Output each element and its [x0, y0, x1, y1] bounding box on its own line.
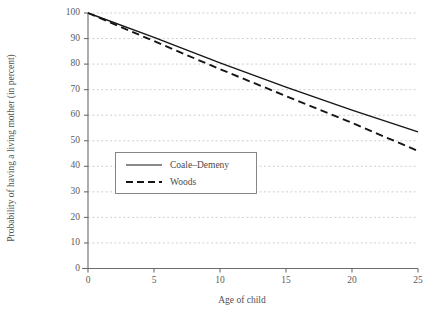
x-axis-title: Age of child	[218, 295, 266, 305]
x-axis-tick-label: 25	[413, 275, 423, 285]
y-axis-tick-label: 70	[71, 84, 81, 94]
y-axis-tick-label: 20	[71, 212, 81, 222]
gridline-group	[88, 13, 418, 269]
series-line-woods	[88, 13, 418, 151]
y-axis-tick-label: 80	[71, 58, 81, 68]
legend-label-woods: Woods	[170, 177, 196, 187]
chart-figure: 0102030405060708090100 0510152025 Age of…	[0, 0, 432, 326]
y-axis-tick-label: 100	[66, 7, 81, 17]
y-axis-tick-label: 30	[71, 186, 81, 196]
legend-box	[116, 153, 257, 194]
y-axis-tick-group	[84, 13, 88, 269]
y-axis-title: Probability of having a living mother (i…	[6, 54, 17, 242]
y-axis-tick-label: 50	[71, 135, 81, 145]
x-axis-tick-labels: 0510152025	[86, 275, 423, 285]
legend-label-coale-demeny: Coale–Demeny	[170, 160, 229, 170]
y-axis-tick-label: 0	[75, 263, 80, 273]
y-axis-tick-label: 10	[71, 237, 81, 247]
series-line-coale-demeny	[88, 13, 418, 132]
x-axis-tick-label: 20	[347, 275, 357, 285]
x-axis-tick-label: 0	[86, 275, 91, 285]
x-axis-tick-label: 10	[215, 275, 225, 285]
chart-legend: Coale–Demeny Woods	[116, 153, 257, 194]
y-axis-tick-labels: 0102030405060708090100	[66, 7, 81, 273]
y-axis-tick-label: 40	[71, 160, 81, 170]
x-axis-tick-label: 15	[281, 275, 291, 285]
line-chart: 0102030405060708090100 0510152025 Age of…	[0, 0, 432, 326]
y-axis-tick-label: 90	[71, 33, 81, 43]
y-axis-tick-label: 60	[71, 109, 81, 119]
x-axis-tick-group	[88, 269, 418, 273]
x-axis-tick-label: 5	[152, 275, 157, 285]
